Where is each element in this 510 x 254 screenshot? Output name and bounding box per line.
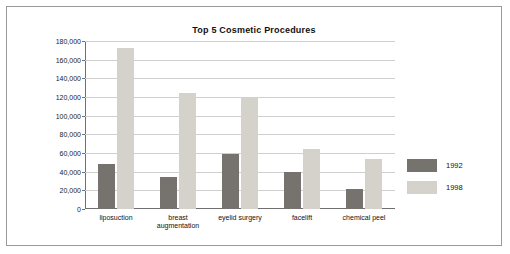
bar-1998-chemical-peel [365,159,382,209]
legend-item-1998: 1998 [407,181,493,194]
bar-1998-liposuction [117,48,134,209]
y-tick-label: 180,000 [56,38,81,45]
legend-label-1998: 1998 [446,183,463,192]
bar-1992-facelift [284,172,301,209]
bar-group: chemical peel [333,41,395,209]
legend-swatch-1992 [407,159,437,172]
chart-title: Top 5 Cosmetic Procedures [7,25,501,35]
chart-frame: Top 5 Cosmetic Procedures 020,00040,0006… [6,6,502,246]
bar-1998-breast-augmentation [179,93,196,209]
bar-1998-facelift [303,149,320,209]
y-tick-label: 100,000 [56,112,81,119]
y-tick-label: 140,000 [56,75,81,82]
y-tick-label: 80,000 [60,131,81,138]
y-tick-label: 120,000 [56,94,81,101]
x-tick-label: eyelid surgery [209,214,271,222]
bar-1992-chemical-peel [346,189,363,209]
plot-area: 020,00040,00060,00080,000100,000120,0001… [85,41,395,209]
bar-1992-eyelid-surgery [222,154,239,209]
bar-1992-liposuction [98,164,115,209]
bar-group: facelift [271,41,333,209]
x-tick-label: breast augmentation [147,214,209,230]
bar-group: eyelid surgery [209,41,271,209]
y-tick-label: 60,000 [60,150,81,157]
y-tick-label: 40,000 [60,168,81,175]
chart-legend: 19921998 [407,159,493,203]
y-tick-label: 160,000 [56,56,81,63]
x-tick-label: liposuction [85,214,147,222]
legend-swatch-1998 [407,181,437,194]
bar-1998-eyelid-surgery [241,97,258,209]
y-tick-mark [82,209,85,210]
bar-group: breast augmentation [147,41,209,209]
x-tick-label: facelift [271,214,333,222]
y-tick-label: 20,000 [60,187,81,194]
y-tick-label: 0 [77,206,81,213]
bar-1992-breast-augmentation [160,177,177,209]
legend-item-1992: 1992 [407,159,493,172]
x-tick-label: chemical peel [333,214,395,222]
legend-label-1992: 1992 [446,161,463,170]
bar-group: liposuction [85,41,147,209]
